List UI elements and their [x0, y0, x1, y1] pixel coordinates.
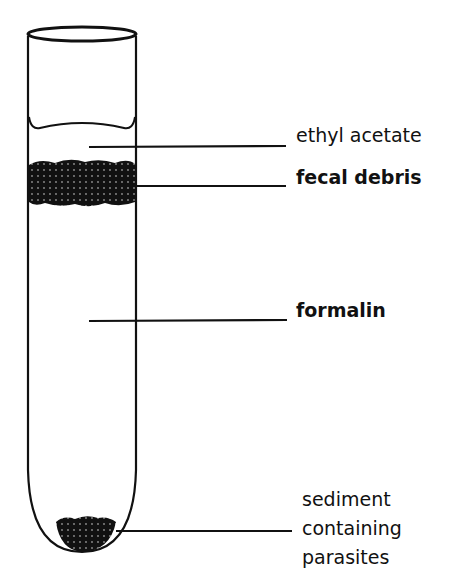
label-sediment: sediment containing parasites: [302, 485, 402, 572]
label-sediment-line2: containing: [302, 514, 402, 543]
label-formalin: formalin: [296, 299, 386, 321]
leader-ethyl-acetate: [89, 146, 286, 147]
leader-formalin: [89, 320, 287, 321]
label-ethyl-acetate: ethyl acetate: [296, 124, 422, 146]
tube-outline: [28, 36, 136, 552]
label-sediment-line1: sediment: [302, 485, 402, 514]
fecal-debris-band: [29, 160, 135, 207]
tube-rim: [28, 27, 136, 41]
meniscus: [29, 117, 135, 128]
label-fecal-debris: fecal debris: [296, 166, 422, 188]
label-sediment-line3: parasites: [302, 543, 402, 572]
